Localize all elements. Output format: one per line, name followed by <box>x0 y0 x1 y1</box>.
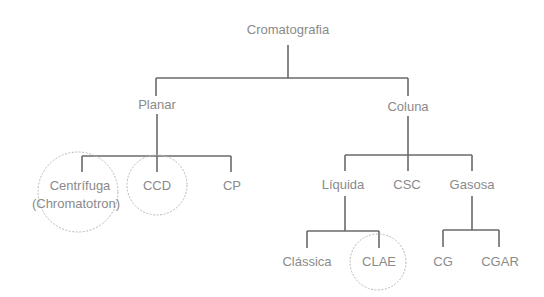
edges-root <box>156 45 408 96</box>
edges-gasosa <box>443 196 499 247</box>
node-centrifuga: Centrífuga <box>50 178 111 193</box>
node-liquida: Líquida <box>322 177 365 192</box>
node-coluna: Coluna <box>387 99 429 114</box>
edges-coluna <box>345 116 472 171</box>
edges-liquida <box>307 196 379 248</box>
node-classica: Clássica <box>282 254 332 269</box>
node-cgar: CGAR <box>481 254 519 269</box>
node-centrifuga-subtitle: (Chromatotron) <box>32 196 120 211</box>
node-planar: Planar <box>138 97 176 112</box>
node-clae: CLAE <box>362 254 396 269</box>
edges-planar <box>82 114 231 172</box>
node-cromatografia: Cromatografia <box>247 22 330 37</box>
node-ccd: CCD <box>143 178 171 193</box>
node-cg: CG <box>433 254 453 269</box>
chromatography-tree-diagram: Cromatografia Planar Coluna Centrífuga (… <box>0 0 544 297</box>
node-gasosa: Gasosa <box>450 177 496 192</box>
node-cp: CP <box>223 178 241 193</box>
node-csc: CSC <box>393 177 420 192</box>
